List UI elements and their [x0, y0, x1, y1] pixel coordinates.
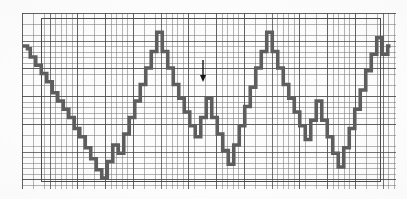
down-arrow-annotation: [196, 60, 210, 82]
waveform-trace: [0, 0, 407, 199]
arrow-head-icon: [200, 75, 206, 82]
waveform-trace-path: [22, 32, 391, 178]
figure-canvas: [0, 0, 407, 199]
